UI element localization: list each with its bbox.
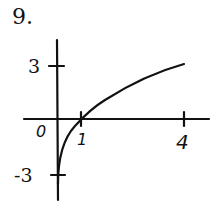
label-x-four: 4 (176, 130, 189, 154)
label-y-neg-three: -3 (14, 164, 33, 186)
label-y-three: 3 (28, 55, 40, 77)
label-origin: 0 (36, 122, 46, 141)
label-x-one: 1 (77, 130, 87, 149)
graph-figure: 9. 0 1 4 3 -3 (0, 0, 213, 204)
curve-line (58, 64, 184, 184)
